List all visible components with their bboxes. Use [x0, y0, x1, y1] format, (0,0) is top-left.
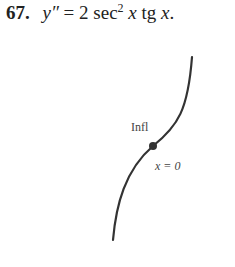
inflection-label: Infl	[131, 120, 148, 135]
inflection-point	[149, 142, 157, 150]
curve-sketch	[0, 0, 235, 267]
point-label: x = 0	[155, 159, 180, 174]
